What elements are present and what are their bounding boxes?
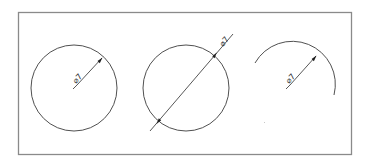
dimension-label-1: ⌀7 [71,72,84,85]
view-arc: ⌀7 [255,41,335,95]
view-circle-radius: ⌀7 [31,45,117,131]
arc-3 [255,41,335,95]
dimension-label-3: ⌀7 [284,72,297,85]
drawing-frame [19,13,352,155]
circle-2 [143,45,229,131]
dimension-label-2: ⌀7 [218,35,231,48]
drawing-canvas: ⌀7 ⌀7 ⌀7 [0,0,370,161]
dimension-diameter-line [150,34,233,131]
cad-drawing: ⌀7 ⌀7 ⌀7 [0,0,370,161]
stray-mark [264,122,265,123]
view-circle-diameter: ⌀7 [143,34,233,131]
